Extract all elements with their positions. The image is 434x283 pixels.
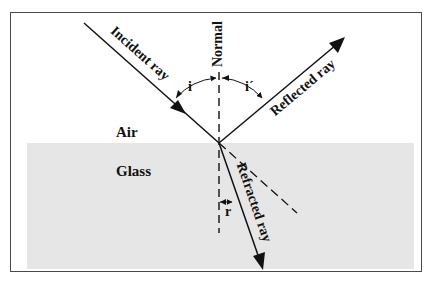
glass-label: Glass: [116, 164, 151, 179]
normal-label: Normal: [211, 21, 225, 67]
angle-i-prime-arc-start-arrow: [222, 75, 229, 81]
air-label: Air: [116, 125, 138, 140]
angle-i-prime-label: i´: [245, 80, 254, 94]
refracted-ray-arrowhead: [253, 252, 265, 270]
reflected-ray-arrowhead: [329, 37, 345, 53]
angle-i-label: i: [188, 80, 192, 94]
incident-ray-line: [84, 23, 219, 143]
angle-i-arc: [176, 78, 216, 98]
angle-r-label: r: [225, 205, 231, 219]
angle-i-arc-start-arrow: [176, 90, 182, 98]
angle-i-prime-arc: [222, 78, 262, 98]
reflected-ray-line: [219, 45, 336, 143]
